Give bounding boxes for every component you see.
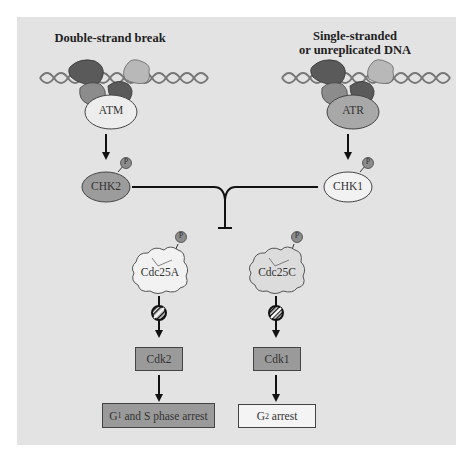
g1-prefix: G — [109, 410, 117, 422]
chk1-label: CHK1 — [324, 180, 372, 192]
inhibition-connector — [132, 187, 318, 228]
g1-s-arrest-box: G1 and S phase arrest — [102, 403, 215, 428]
atr-label: ATR — [328, 104, 378, 116]
cdc25a-label: Cdc25A — [134, 266, 186, 278]
g2-suffix: arrest — [269, 410, 297, 422]
phospho-label: P — [363, 157, 373, 166]
cdc25c-label: Cdc25C — [251, 266, 303, 278]
atr-complex-icon — [311, 60, 394, 129]
cdc25a-node — [132, 232, 187, 294]
g2-arrest-box: G2 arrest — [238, 404, 316, 428]
blocked-arrow-left — [152, 296, 166, 334]
left-branch-title: Double-strand break — [40, 31, 180, 45]
cdk1-box: Cdk1 — [253, 347, 301, 371]
right-branch-title-line1: Single-stranded — [290, 29, 420, 43]
right-branch-title-line2: or unreplicated DNA — [290, 43, 420, 57]
dna-helix-right-icon — [282, 73, 450, 83]
pathway-graphics — [0, 0, 472, 460]
cdk2-box: Cdk2 — [135, 347, 183, 371]
atm-complex-icon — [69, 60, 150, 129]
g1-suffix: and S phase arrest — [122, 410, 208, 422]
g2-prefix: G — [257, 410, 265, 422]
chk2-label: CHK2 — [82, 180, 130, 192]
atm-label: ATM — [86, 104, 136, 116]
cdc25c-node — [249, 232, 304, 294]
phospho-label: P — [176, 231, 186, 240]
phospho-label: P — [292, 231, 302, 240]
right-branch-title: Single-stranded or unreplicated DNA — [290, 29, 420, 57]
blocked-arrow-right — [269, 296, 283, 334]
phospho-label: P — [121, 157, 131, 166]
